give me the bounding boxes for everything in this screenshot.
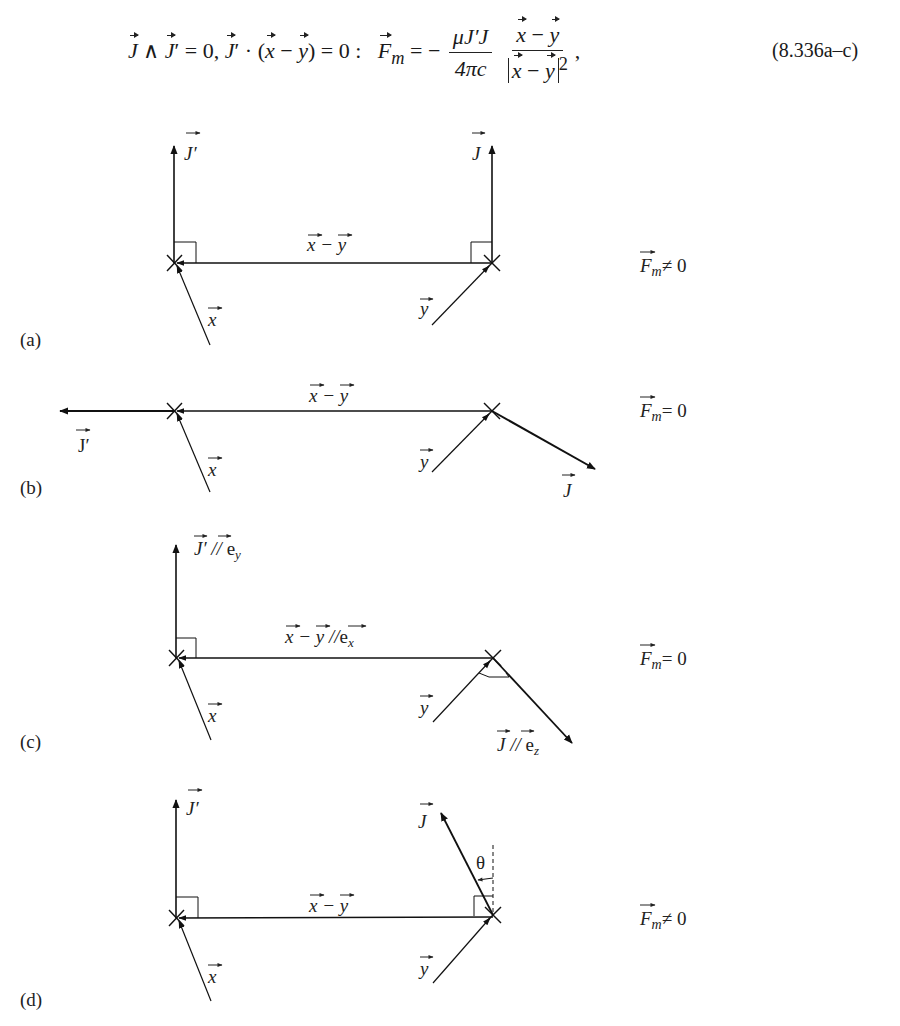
- svg-text:y: y: [418, 697, 429, 718]
- x-arrow: [179, 921, 211, 1001]
- y-label: y: [418, 298, 433, 319]
- force-result-c: Fm= 0: [639, 645, 687, 672]
- x-minus-y-arrow: [179, 917, 493, 918]
- x-label: x: [207, 704, 222, 726]
- svg-text:y: y: [418, 958, 429, 979]
- y-label: y: [418, 450, 433, 472]
- panel-label-c: (c): [20, 731, 41, 753]
- svg-text:x: x: [207, 309, 217, 330]
- theta-angle-arrow: [478, 878, 493, 880]
- panel-label-b: (b): [20, 477, 42, 499]
- j-arrow: [493, 658, 572, 743]
- j-arrow: [441, 813, 493, 915]
- svg-text:x − y //ex: x − y //ex: [284, 626, 354, 650]
- x-arrow: [177, 266, 210, 345]
- y-arrow: [432, 414, 489, 472]
- x-label: x: [207, 308, 222, 330]
- j-label: J: [418, 804, 433, 832]
- x-arrow: [179, 661, 211, 740]
- svg-text:J // ez: J // ez: [497, 734, 539, 758]
- svg-text:J: J: [563, 480, 573, 501]
- x-minus-y-label: x − y: [308, 385, 354, 406]
- j-prime-label: J′ // ey: [194, 536, 241, 562]
- svg-text:J′ // ey: J′ // ey: [194, 538, 241, 562]
- j-label: J: [562, 475, 575, 501]
- y-label: y: [418, 957, 433, 979]
- panel-a: J′ J x − y x y Fm≠ 0 (a): [20, 133, 686, 351]
- y-arrow: [432, 266, 489, 325]
- x-arrow: [177, 414, 210, 492]
- svg-text:y: y: [418, 451, 429, 472]
- svg-text:Fm≠ 0: Fm≠ 0: [639, 255, 686, 279]
- force-result-a: Fm≠ 0: [639, 252, 686, 279]
- svg-text:J′: J′: [184, 143, 197, 164]
- svg-text:Fm= 0: Fm= 0: [639, 400, 687, 424]
- svg-text:x − y: x − y: [308, 895, 349, 916]
- j-arrow: [492, 411, 595, 469]
- y-arrow: [433, 661, 490, 722]
- j-label: J // ez: [497, 731, 539, 758]
- svg-text:J: J: [418, 811, 428, 832]
- svg-text:J′: J′: [186, 798, 199, 819]
- current-interaction-figure: J′ J x − y x y Fm≠ 0 (a) J′ J x − y x y …: [0, 0, 900, 1026]
- force-result-b: Fm= 0: [639, 397, 687, 424]
- j-prime-label: J′: [186, 790, 202, 819]
- panel-d: J′ J θ x − y x y Fm≠ 0 (d): [20, 790, 686, 1011]
- panel-c: J′ // ey J // ez x − y //ex x y Fm= 0 (c…: [20, 536, 687, 758]
- y-arrow: [433, 918, 490, 983]
- svg-text:x: x: [207, 459, 217, 480]
- y-label: y: [418, 696, 433, 718]
- force-result-d: Fm≠ 0: [639, 905, 686, 932]
- theta-label: θ: [476, 852, 485, 873]
- panel-label-d: (d): [20, 989, 42, 1011]
- right-angle-right: [479, 673, 509, 677]
- svg-text:y: y: [418, 298, 429, 319]
- x-label: x: [207, 458, 222, 480]
- svg-text:J: J: [472, 143, 482, 164]
- x-minus-y-label: x − y: [308, 895, 354, 916]
- svg-text:x − y: x − y: [306, 234, 347, 255]
- svg-text:x: x: [207, 705, 217, 726]
- j-prime-label: J′: [76, 430, 90, 456]
- svg-text:J′: J′: [78, 435, 90, 456]
- panel-label-a: (a): [20, 329, 41, 351]
- svg-text:Fm≠ 0: Fm≠ 0: [639, 908, 686, 932]
- svg-text:x: x: [207, 966, 217, 987]
- svg-text:Fm= 0: Fm= 0: [639, 648, 687, 672]
- panel-b: J′ J x − y x y Fm= 0 (b): [20, 385, 687, 501]
- svg-text:x − y: x − y: [308, 385, 349, 406]
- x-minus-y-label: x − y //ex: [284, 626, 366, 650]
- x-minus-y-label: x − y: [306, 234, 352, 255]
- j-prime-label: J′: [184, 133, 200, 164]
- x-label: x: [207, 965, 222, 987]
- j-label: J: [472, 133, 485, 164]
